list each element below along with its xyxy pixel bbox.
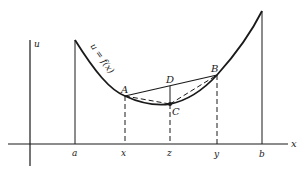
tick-x: x xyxy=(121,148,126,158)
tick-b: b xyxy=(259,149,265,159)
u-axis-label: u xyxy=(34,39,40,49)
tick-a: a xyxy=(72,148,77,158)
curve-label: u = f(x) xyxy=(88,41,116,75)
x-axis-label: x xyxy=(291,138,297,149)
point-C-label: C xyxy=(172,106,180,117)
point-B-label: B xyxy=(210,63,218,74)
point-D-label: D xyxy=(165,74,174,85)
point-A-label: A xyxy=(120,84,128,95)
tick-y: y xyxy=(213,149,220,159)
convex-function-figure: x u u = f(x) A B C D a x z y b xyxy=(0,0,302,174)
tick-z: z xyxy=(166,148,172,158)
